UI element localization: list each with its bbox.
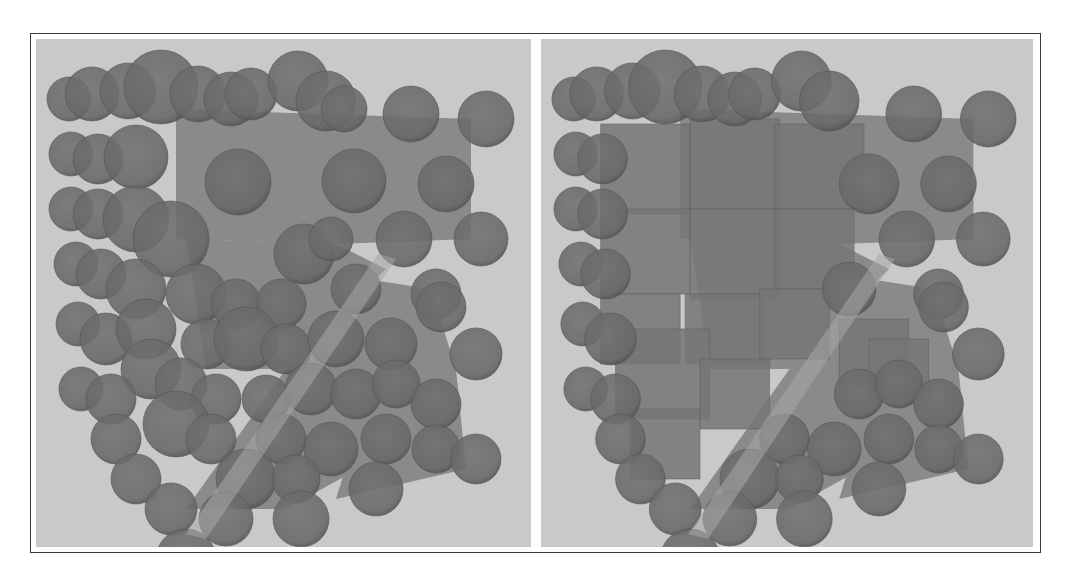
render-left (36, 39, 531, 547)
sphere (383, 86, 439, 142)
sphere (451, 434, 501, 484)
sphere (799, 71, 859, 131)
sphere (322, 149, 386, 213)
sphere (450, 328, 502, 380)
sphere (454, 212, 508, 266)
sphere (458, 91, 514, 147)
figure-frame (30, 33, 1041, 553)
sphere (852, 462, 906, 516)
sphere (411, 379, 461, 429)
sphere (581, 249, 631, 299)
cube (700, 359, 770, 429)
sphere (919, 282, 969, 332)
render-right (541, 39, 1033, 547)
sphere (956, 212, 1010, 266)
sphere (578, 189, 628, 239)
panel-left-spheres (36, 39, 531, 547)
sphere (953, 434, 1003, 484)
sphere (921, 156, 977, 212)
sphere (309, 217, 353, 261)
sphere (864, 414, 914, 464)
sphere (952, 328, 1004, 380)
sphere (349, 462, 403, 516)
sphere (839, 154, 899, 214)
cube (690, 119, 779, 209)
sphere (886, 86, 942, 142)
sphere (578, 134, 628, 184)
sphere (273, 491, 329, 547)
sphere (361, 414, 411, 464)
panel-divider (531, 34, 541, 552)
sphere (205, 149, 271, 215)
sphere (321, 86, 367, 132)
panel-right-spheres-cubes (541, 39, 1033, 547)
sphere (145, 483, 197, 535)
sphere (914, 379, 964, 429)
sphere (777, 491, 833, 547)
sphere (104, 125, 168, 189)
sphere (418, 156, 474, 212)
sphere (585, 313, 637, 365)
sphere (416, 282, 466, 332)
sphere (960, 91, 1016, 147)
cube (690, 209, 779, 299)
